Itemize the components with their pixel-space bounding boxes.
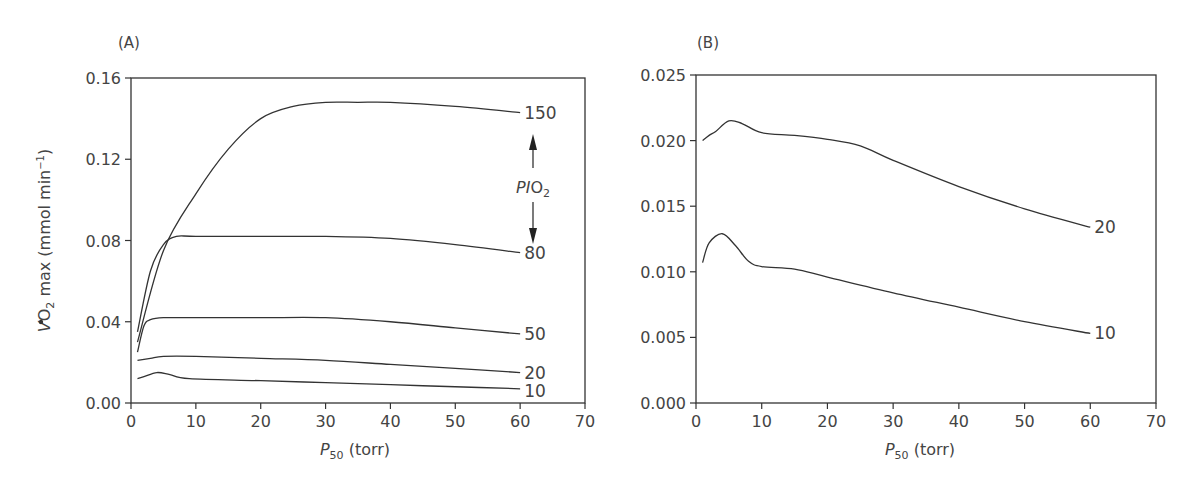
plot-frame — [696, 75, 1156, 403]
y-label-post: max (mmol min — [35, 170, 54, 302]
y-label-end: ) — [35, 149, 54, 155]
series-label-20: 20 — [1094, 217, 1116, 237]
y-tick-label: 0.005 — [640, 328, 686, 347]
y-tick-label: 0.020 — [640, 132, 686, 151]
series-line-20 — [703, 120, 1091, 227]
x-axis-label: P50 (torr) — [320, 440, 390, 462]
x-tick-label: 60 — [1080, 412, 1100, 431]
y-tick-label: 0.12 — [85, 150, 121, 169]
x-tick-label: 0 — [691, 412, 701, 431]
panel-b: (B)0102030405060700.0000.0050.0100.0150.… — [640, 34, 1166, 462]
pio2-o: O — [530, 178, 543, 197]
y-axis-label: VO2 max (mmol min−1) — [35, 149, 57, 332]
y-tick-label: 0.015 — [640, 197, 686, 216]
x-tick-label: 0 — [126, 412, 136, 431]
x-tick-label: 70 — [1146, 412, 1166, 431]
panel-a: (A)0102030405060700.000.040.080.120.16P5… — [35, 34, 595, 462]
y-tick-label: 0.010 — [640, 263, 686, 282]
chart-figure: (A)0102030405060700.000.040.080.120.16P5… — [0, 0, 1194, 494]
panel-label: (B) — [697, 34, 719, 52]
y-tick-label: 0.000 — [640, 394, 686, 413]
y-tick-label: 0.08 — [85, 232, 121, 251]
x-axis-label: P50 (torr) — [885, 440, 955, 462]
x-label-sub: 50 — [895, 449, 909, 462]
x-tick-label: 40 — [949, 412, 969, 431]
x-label-unit: (torr) — [344, 440, 391, 459]
arrow-down-icon — [529, 228, 537, 244]
x-tick-label: 70 — [575, 412, 595, 431]
series-line-10 — [137, 372, 520, 388]
panel-label: (A) — [118, 34, 140, 52]
y-tick-label: 0.025 — [640, 66, 686, 85]
series-label-20: 20 — [524, 363, 546, 383]
series-line-20 — [137, 356, 520, 373]
y-tick-label: 0.00 — [85, 394, 121, 413]
pio2-sub: 2 — [543, 187, 550, 200]
series-line-150 — [137, 102, 520, 342]
y-label-o: O — [35, 309, 54, 322]
x-label-unit: (torr) — [909, 440, 956, 459]
series-line-50 — [137, 317, 520, 352]
plot-frame — [131, 78, 585, 403]
x-tick-label: 30 — [315, 412, 335, 431]
y-label-sub: 2 — [44, 302, 57, 309]
series-label-50: 50 — [524, 324, 546, 344]
x-tick-label: 20 — [251, 412, 271, 431]
y-label-sup: −1 — [35, 155, 46, 170]
y-tick-label: 0.04 — [85, 313, 121, 332]
x-tick-label: 20 — [817, 412, 837, 431]
x-tick-label: 50 — [445, 412, 465, 431]
x-tick-label: 10 — [752, 412, 772, 431]
x-label-p: P — [885, 440, 895, 459]
series-label-80: 80 — [524, 243, 546, 263]
series-label-150: 150 — [524, 103, 556, 123]
pio2-main: PI — [516, 178, 531, 197]
x-tick-label: 50 — [1014, 412, 1034, 431]
y-tick-label: 0.16 — [85, 69, 121, 88]
x-label-sub: 50 — [330, 449, 344, 462]
series-line-10 — [703, 234, 1091, 334]
x-tick-label: 40 — [380, 412, 400, 431]
series-label-10: 10 — [524, 381, 546, 401]
x-label-p: P — [320, 440, 330, 459]
x-tick-label: 30 — [883, 412, 903, 431]
x-tick-label: 10 — [186, 412, 206, 431]
series-label-10: 10 — [1094, 323, 1116, 343]
x-tick-label: 60 — [510, 412, 530, 431]
arrow-up-icon — [529, 134, 537, 150]
pio2-label: PIO2 — [516, 178, 550, 200]
dot-icon — [39, 320, 43, 324]
